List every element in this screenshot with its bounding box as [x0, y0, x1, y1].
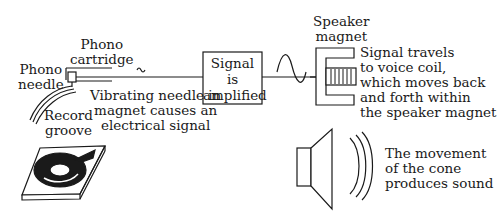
speaker-cone-icon — [297, 129, 332, 209]
label-voice-coil: Signal travels to voice coil, which move… — [360, 45, 497, 120]
signal-wave-icon — [277, 55, 306, 83]
phono-cartridge-icon — [66, 68, 203, 87]
speaker-magnet-icon — [316, 48, 356, 105]
label-vibrating-needle: Vibrating needle in magnet causes an ele… — [90, 88, 221, 133]
sound-waves-icon — [350, 132, 373, 200]
turntable-icon — [22, 146, 105, 200]
label-cone-sound: The movement of the cone produces sound — [385, 146, 493, 191]
small-signal-wave-icon — [137, 68, 145, 72]
label-phono-cartridge: Phono cartridge — [70, 37, 134, 67]
label-record-groove: Record groove — [44, 108, 93, 138]
label-phono-needle: Phono needle — [18, 62, 64, 92]
label-speaker-magnet: Speaker magnet — [313, 14, 370, 44]
label-amplifier: Signal is amplified — [203, 55, 262, 103]
